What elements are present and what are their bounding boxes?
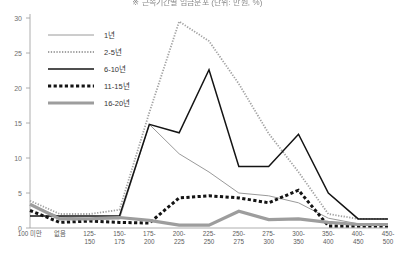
legend-item[interactable]: 16-20년 — [47, 94, 177, 111]
legend-swatch-icon — [47, 47, 95, 57]
legend-swatch-icon — [47, 98, 95, 108]
x-tick-label: 450- 500 — [382, 230, 395, 245]
x-tick-label: 225- 250 — [203, 230, 216, 245]
y-tick-label: 30 — [14, 15, 22, 22]
legend-item[interactable]: 2-5년 — [47, 43, 177, 60]
x-tick-label: 100 미만 — [18, 230, 42, 238]
x-tick-label: 250- 275 — [233, 230, 246, 245]
chart-container: ※ 근속기간별 임금분포 (단위: 만원, %) 051015202530 10… — [0, 0, 395, 264]
x-tick-label: 200- 225 — [173, 230, 186, 245]
x-tick-label: 175- 200 — [143, 230, 156, 245]
x-tick-label: 400- 450 — [352, 230, 365, 245]
y-tick-label: 5 — [18, 190, 22, 197]
series-line-11-15 — [30, 190, 388, 226]
y-tick-label: 25 — [14, 50, 22, 57]
y-tick-label: 15 — [14, 120, 22, 127]
y-tick-label: 10 — [14, 155, 22, 162]
chart-title: ※ 근속기간별 임금분포 (단위: 만원, %) — [0, 0, 395, 7]
legend-swatch-icon — [47, 81, 95, 91]
legend-swatch-icon — [47, 64, 95, 74]
legend-label: 6-10년 — [104, 63, 126, 74]
legend: 1년2-5년6-10년11-15년16-20년 — [47, 26, 177, 111]
series-line-1 — [30, 124, 388, 223]
y-tick-label: 20 — [14, 85, 22, 92]
x-tick-label: 없음 — [54, 230, 66, 238]
legend-item[interactable]: 11-15년 — [47, 77, 177, 94]
legend-item[interactable]: 6-10년 — [47, 60, 177, 77]
x-tick-label: 300- 350 — [292, 230, 305, 245]
legend-label: 16-20년 — [104, 97, 130, 108]
legend-swatch-icon — [47, 30, 95, 40]
legend-item[interactable]: 1년 — [47, 26, 177, 43]
x-tick-label: 350- 400 — [322, 230, 335, 245]
x-axis: 100 미만없음125- 150150- 175175- 200200- 225… — [30, 230, 388, 260]
x-tick-label: 275- 300 — [262, 230, 275, 245]
legend-label: 2-5년 — [104, 46, 122, 57]
legend-label: 11-15년 — [104, 80, 130, 91]
legend-label: 1년 — [104, 29, 115, 40]
x-tick-label: 125- 150 — [83, 230, 96, 245]
y-axis: 051015202530 — [0, 18, 28, 228]
x-tick-label: 150- 175 — [113, 230, 126, 245]
